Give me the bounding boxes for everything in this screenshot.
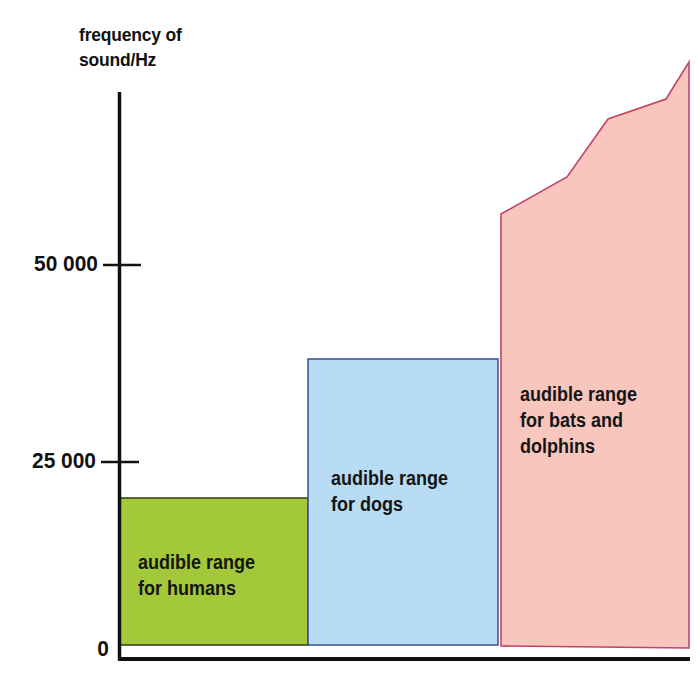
label-dogs: audible range for dogs (331, 465, 448, 517)
tick-label-0: 0 (14, 636, 109, 662)
tick-label-50000: 50 000 (3, 251, 98, 277)
chart-plot-area (0, 0, 697, 686)
tick-label-25000: 25 000 (1, 448, 96, 474)
y-axis-title: frequency of sound/Hz (79, 22, 182, 72)
bar-bats-dolphins (501, 62, 689, 648)
label-humans: audible range for humans (138, 549, 255, 601)
label-bats-dolphins: audible range for bats and dolphins (520, 381, 637, 459)
audible-range-chart: frequency of sound/Hz 50 000 25 000 0 au… (0, 0, 697, 686)
